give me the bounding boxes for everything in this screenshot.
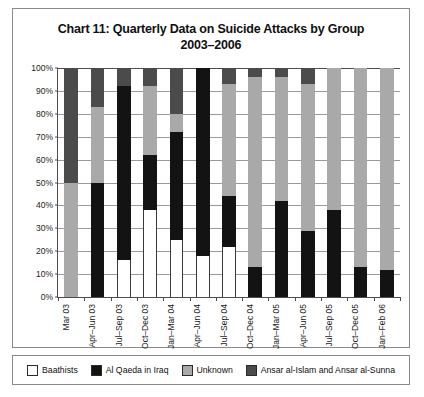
y-tick-label: 0% xyxy=(41,292,53,302)
legend-swatch xyxy=(27,365,38,376)
bar-group[interactable] xyxy=(275,68,289,297)
chart-title-line2: 2003–2006 xyxy=(13,37,409,53)
bar-segment[interactable] xyxy=(64,183,78,298)
bar-segment[interactable] xyxy=(248,267,262,297)
bar-segment[interactable] xyxy=(301,68,315,84)
bar-group[interactable] xyxy=(301,68,315,297)
x-tick-mark xyxy=(374,297,375,301)
bar-group[interactable] xyxy=(196,68,210,297)
legend-swatch xyxy=(182,365,193,376)
y-tick-label: 90% xyxy=(36,86,53,96)
x-tick-mark xyxy=(84,297,85,301)
bar-segment[interactable] xyxy=(170,68,184,114)
x-tick-mark xyxy=(242,297,243,301)
y-tick-label: 50% xyxy=(36,178,53,188)
y-tick-label: 80% xyxy=(36,109,53,119)
bar-segment[interactable] xyxy=(380,68,394,270)
y-tick-label: 40% xyxy=(36,200,53,210)
x-tick-mark xyxy=(111,297,112,301)
bar-segment[interactable] xyxy=(380,270,394,297)
bar-group[interactable] xyxy=(64,68,78,297)
x-tick-label: Oct–Dec 04 xyxy=(245,304,255,349)
x-tick-label: Oct–Dec 05 xyxy=(350,304,360,349)
bar-group[interactable] xyxy=(380,68,394,297)
legend-label: Al Qaeda in Iraq xyxy=(106,365,169,375)
legend-item[interactable]: Ansar al-Islam and Ansar al-Sunna xyxy=(246,365,395,376)
chart-title: Chart 11: Quarterly Data on Suicide Atta… xyxy=(13,21,409,53)
bar-segment[interactable] xyxy=(196,68,210,256)
x-tick-mark xyxy=(163,297,164,301)
y-tick-label: 10% xyxy=(36,269,53,279)
bar-group[interactable] xyxy=(143,68,157,297)
bar-segment[interactable] xyxy=(301,231,315,297)
bar-segment[interactable] xyxy=(275,77,289,201)
x-tick-mark xyxy=(321,297,322,301)
y-tick-label: 70% xyxy=(36,132,53,142)
bar-segment[interactable] xyxy=(222,84,236,196)
chart-figure: Chart 11: Quarterly Data on Suicide Atta… xyxy=(12,8,410,348)
bar-segment[interactable] xyxy=(143,86,157,155)
x-tick-label: Jul–Sep 04 xyxy=(219,304,229,347)
bar-segment[interactable] xyxy=(222,247,236,297)
bar-segment[interactable] xyxy=(143,68,157,86)
bar-segment[interactable] xyxy=(354,267,368,297)
bar-segment[interactable] xyxy=(301,84,315,231)
x-tick-mark xyxy=(190,297,191,301)
legend-label: Ansar al-Islam and Ansar al-Sunna xyxy=(261,365,395,375)
bar-group[interactable] xyxy=(248,68,262,297)
bar-segment[interactable] xyxy=(222,68,236,84)
bar-segment[interactable] xyxy=(170,132,184,240)
bar-segment[interactable] xyxy=(64,68,78,183)
legend-item[interactable]: Unknown xyxy=(182,365,233,376)
bar-segment[interactable] xyxy=(91,68,105,107)
chart-legend: BaathistsAl Qaeda in IraqUnknownAnsar al… xyxy=(12,355,410,385)
bar-segment[interactable] xyxy=(196,256,210,297)
x-tick-mark xyxy=(268,297,269,301)
x-tick-label: Apr–Jun 03 xyxy=(87,304,97,347)
bar-group[interactable] xyxy=(117,68,131,297)
legend-swatch xyxy=(246,365,257,376)
bar-segment[interactable] xyxy=(117,86,131,260)
x-tick-label: Mar 03 xyxy=(61,304,71,330)
x-tick-label: Apr–Jun 05 xyxy=(298,304,308,347)
bar-group[interactable] xyxy=(170,68,184,297)
bar-segment[interactable] xyxy=(170,114,184,132)
legend-item[interactable]: Al Qaeda in Iraq xyxy=(91,365,169,376)
x-tick-label: Apr–Jun 04 xyxy=(192,304,202,347)
x-tick-label: Jan–Mar 04 xyxy=(166,304,176,349)
x-tick-mark xyxy=(58,297,59,301)
bar-segment[interactable] xyxy=(327,68,341,210)
bar-group[interactable] xyxy=(91,68,105,297)
bar-segment[interactable] xyxy=(248,77,262,267)
bar-segment[interactable] xyxy=(275,201,289,297)
bar-segment[interactable] xyxy=(354,68,368,267)
x-tick-label: Jan–Mar 05 xyxy=(271,304,281,349)
bar-segment[interactable] xyxy=(143,210,157,297)
x-tick-mark xyxy=(216,297,217,301)
bar-segment[interactable] xyxy=(91,107,105,183)
bar-group[interactable] xyxy=(354,68,368,297)
bar-segment[interactable] xyxy=(275,68,289,77)
bar-group[interactable] xyxy=(327,68,341,297)
bar-segment[interactable] xyxy=(170,240,184,297)
bar-segment[interactable] xyxy=(91,183,105,298)
legend-label: Unknown xyxy=(197,365,233,375)
x-tick-mark xyxy=(295,297,296,301)
bar-segment[interactable] xyxy=(327,210,341,297)
bar-group[interactable] xyxy=(222,68,236,297)
y-tick-label: 30% xyxy=(36,223,53,233)
x-tick-label: Jul–Sep 05 xyxy=(324,304,334,347)
legend-item[interactable]: Baathists xyxy=(27,365,78,376)
x-tick-mark xyxy=(347,297,348,301)
x-tick-label: Jul–Sep 03 xyxy=(114,304,124,347)
y-tick-label: 60% xyxy=(36,155,53,165)
y-tick-label: 100% xyxy=(31,63,53,73)
bar-segment[interactable] xyxy=(222,196,236,246)
bar-segment[interactable] xyxy=(248,68,262,77)
legend-label: Baathists xyxy=(42,365,78,375)
bar-segment[interactable] xyxy=(117,68,131,86)
legend-swatch xyxy=(91,365,102,376)
bar-segment[interactable] xyxy=(117,260,131,297)
bar-segment[interactable] xyxy=(143,155,157,210)
x-tick-label: Oct–Dec 03 xyxy=(140,304,150,349)
